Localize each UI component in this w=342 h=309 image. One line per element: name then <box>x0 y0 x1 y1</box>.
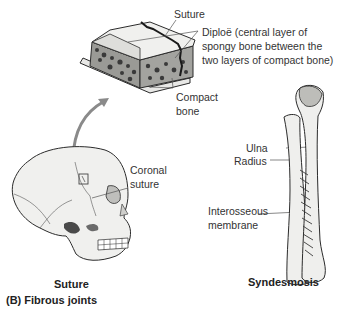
label-interosseous-line1: Interosseous <box>208 205 268 218</box>
label-radius: Radius <box>234 155 267 168</box>
label-coronal-line2: suture <box>130 178 159 191</box>
label-suture: Suture <box>174 8 205 21</box>
label-diploe-line2: spongy bone between the <box>202 40 322 53</box>
label-compact-line1: Compact <box>176 91 218 104</box>
caption-suture: Suture <box>54 278 89 290</box>
label-coronal-line1: Coronal <box>130 164 167 177</box>
label-diploe-line1: Diploë (central layer of <box>202 26 307 39</box>
caption-syndesmosis: Syndesmosis <box>248 276 319 288</box>
label-diploe-line3: two layers of compact bone) <box>202 54 333 67</box>
forearm-bones <box>284 85 325 284</box>
skull-bone-section <box>80 22 195 93</box>
label-compact-line2: bone <box>176 105 199 118</box>
label-interosseous-line2: membrane <box>208 219 258 232</box>
label-ulna: Ulna <box>246 142 268 155</box>
skull <box>12 147 130 261</box>
section-title: (B) Fibrous joints <box>6 294 97 306</box>
